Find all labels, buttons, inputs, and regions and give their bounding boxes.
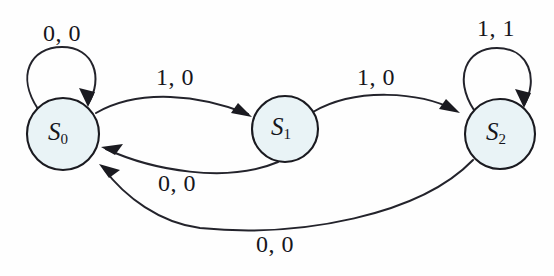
edge-path-s1-s2 (313, 95, 455, 112)
transition-s2-to-s0[interactable] (99, 160, 473, 230)
transition-label-s2-self: 1, 1 (477, 15, 515, 41)
transition-label-s0-self: 0, 0 (43, 20, 81, 46)
state-letter-s2: S (486, 118, 499, 145)
transition-label-s1-s0: 0, 0 (158, 170, 196, 196)
transition-label-s0-s1: 1, 0 (156, 64, 194, 90)
arrow-head-s1-s0 (101, 144, 123, 155)
arrow-head-s2-s0 (99, 164, 120, 178)
arrow-head-s1-s2 (439, 99, 460, 113)
arrow-head-s0-s1 (231, 103, 252, 117)
state-letter-s1: S (271, 113, 284, 140)
transition-s0-to-s1[interactable] (96, 97, 252, 117)
state-diagram-canvas: S0 S1 S2 0, 0 1, 0 0, 0 1, 0 1, 1 0, 0 (0, 0, 554, 276)
edge-path-s0-s1 (96, 97, 248, 114)
fsm-svg: S0 S1 S2 0, 0 1, 0 0, 0 1, 0 1, 1 0, 0 (0, 0, 554, 276)
state-subscript-s1: 1 (284, 126, 292, 142)
state-subscript-s0: 0 (61, 131, 69, 147)
transition-label-s2-s0: 0, 0 (256, 231, 294, 257)
state-node-s1[interactable]: S1 (252, 96, 318, 162)
transition-s1-to-s2[interactable] (313, 95, 460, 113)
state-node-s2[interactable]: S2 (465, 99, 535, 169)
state-subscript-s2: 2 (499, 131, 507, 147)
state-node-s0[interactable]: S0 (27, 98, 99, 170)
state-letter-s0: S (48, 118, 61, 145)
transition-label-s1-s2: 1, 0 (357, 64, 395, 90)
